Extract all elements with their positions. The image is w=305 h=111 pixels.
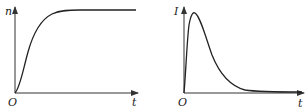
right-curve-i: [184, 13, 302, 93]
right-x-label: t: [298, 97, 303, 110]
left-origin-label: O: [8, 96, 17, 109]
right-plot: I O t: [173, 5, 304, 110]
left-y-label: n: [5, 5, 12, 18]
left-plot: n O t: [5, 5, 138, 109]
figure: n O t I O t: [0, 0, 305, 111]
right-y-label: I: [173, 5, 179, 18]
right-origin-label: O: [178, 96, 187, 109]
left-curve-n: [15, 10, 136, 93]
left-x-label: t: [132, 96, 137, 109]
